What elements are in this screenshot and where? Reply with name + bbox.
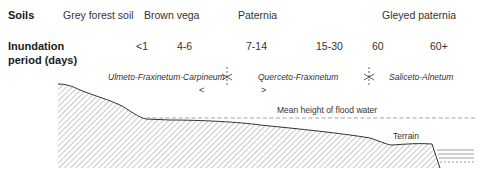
boundary-marker-1 xyxy=(222,67,232,87)
boundary-marker-2 xyxy=(364,67,374,87)
terrain-label: Terrain xyxy=(393,131,419,141)
flood-water-label: Mean height of flood water xyxy=(277,105,377,115)
water-icon xyxy=(437,150,474,162)
terrain-hatch-fill xyxy=(58,84,440,168)
terrain-profile-diagram xyxy=(0,0,480,172)
